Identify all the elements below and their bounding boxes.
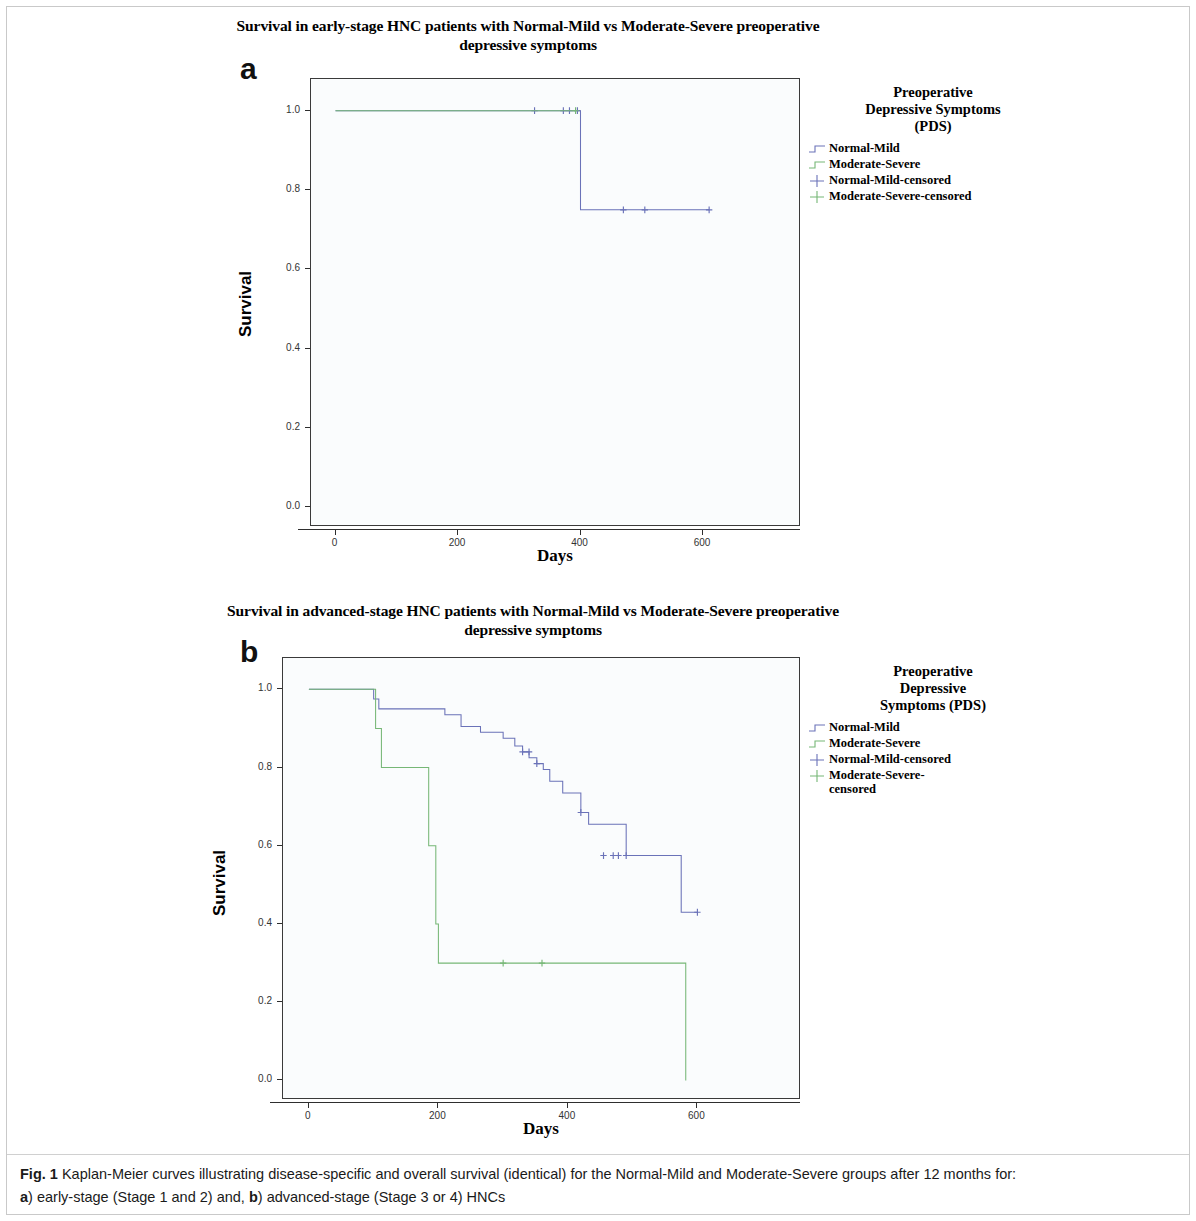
step-line-icon [808, 737, 826, 751]
panel-a: Survival in early-stage HNC patients wit… [0, 0, 1196, 585]
y-tick [305, 110, 310, 111]
x-tick [696, 1102, 697, 1108]
x-tick [567, 1102, 568, 1108]
y-tick [277, 845, 282, 846]
panel-b-legend-items: Normal-MildModerate-SevereNormal-Mild-ce… [808, 720, 1058, 796]
legend-title-line3: (PDS) [808, 118, 1058, 135]
legend-item-label: Moderate-Severe [829, 157, 920, 171]
censor-mark [500, 960, 506, 967]
y-tick [277, 688, 282, 689]
panel-a-legend: Preoperative Depressive Symptoms (PDS) N… [808, 84, 1058, 205]
censor-marker-icon [808, 753, 826, 767]
panel-a-title: Survival in early-stage HNC patients wit… [178, 16, 878, 54]
y-tick-label: 0.0 [238, 1073, 272, 1084]
y-tick [277, 767, 282, 768]
caption-body: Kaplan-Meier curves illustrating disease… [58, 1166, 1016, 1182]
caption-line-2: a) early-stage (Stage 1 and 2) and, b) a… [20, 1186, 1176, 1209]
legend-item[interactable]: Normal-Mild-censored [808, 752, 1058, 767]
panel-b-legend-title: Preoperative Depressive Symptoms (PDS) [808, 663, 1058, 714]
step-line-icon [808, 142, 826, 156]
x-tick [580, 529, 581, 535]
caption-label: Fig. 1 [20, 1166, 58, 1182]
panel-b-plot-area [282, 657, 800, 1099]
censor-mark [539, 960, 545, 967]
y-tick [277, 1001, 282, 1002]
y-tick-label: 0.2 [266, 421, 300, 432]
censor-mark [706, 206, 712, 213]
panel-b-x-axis-line [270, 1102, 800, 1103]
censor-mark [694, 909, 700, 916]
legend-item[interactable]: Moderate-Severe-censored [808, 189, 1058, 204]
y-tick-label: 0.4 [238, 917, 272, 928]
legend-item-label: Moderate-Severe-censored [829, 189, 972, 203]
legend-item[interactable]: Normal-Mild-censored [808, 173, 1058, 188]
censor-mark [534, 760, 540, 767]
y-tick [277, 923, 282, 924]
panel-b-curves [283, 658, 799, 1098]
censor-marker-icon [808, 174, 826, 188]
y-tick [305, 189, 310, 190]
panel-b-y-axis-title: Survival [210, 823, 230, 943]
step-line-icon [808, 158, 826, 172]
panel-a-title-line2: depressive symptoms [178, 35, 878, 54]
censor-mark [578, 809, 584, 816]
y-tick [305, 506, 310, 507]
panel-b-legend: Preoperative Depressive Symptoms (PDS) N… [808, 663, 1058, 797]
panel-b-title: Survival in advanced-stage HNC patients … [178, 601, 888, 639]
panel-a-y-axis-title: Survival [236, 244, 256, 364]
caption-divider [7, 1154, 1189, 1155]
panel-a-legend-items: Normal-MildModerate-SevereNormal-Mild-ce… [808, 141, 1058, 204]
censor-mark [615, 852, 621, 859]
y-tick-label: 0.8 [266, 183, 300, 194]
censor-mark [642, 206, 648, 213]
y-tick [277, 1079, 282, 1080]
survival-curve [336, 111, 710, 210]
caption-line-1: Fig. 1 Kaplan-Meier curves illustrating … [20, 1163, 1176, 1186]
x-tick [457, 529, 458, 535]
y-tick-label: 0.6 [238, 839, 272, 850]
figure-caption: Fig. 1 Kaplan-Meier curves illustrating … [20, 1163, 1176, 1209]
panel-a-legend-title: Preoperative Depressive Symptoms (PDS) [808, 84, 1058, 135]
panel-b-title-line2: depressive symptoms [178, 620, 888, 639]
censor-mark [600, 852, 606, 859]
legend-item[interactable]: Moderate-Severe- censored [808, 768, 1058, 796]
legend-title-line2: Depressive [808, 680, 1058, 697]
panel-a-x-axis-line [298, 529, 800, 530]
survival-curve [309, 689, 698, 912]
panel-a-letter: a [240, 54, 257, 84]
caption-ref-a: a [20, 1189, 28, 1205]
panel-b-title-line1: Survival in advanced-stage HNC patients … [178, 601, 888, 620]
y-tick-label: 0.0 [266, 500, 300, 511]
panel-b: Survival in advanced-stage HNC patients … [0, 585, 1196, 1155]
legend-item[interactable]: Normal-Mild [808, 720, 1058, 735]
legend-item[interactable]: Moderate-Severe [808, 736, 1058, 751]
caption-ref-b: b [249, 1189, 258, 1205]
censor-mark [519, 748, 525, 755]
censor-marker-icon [808, 769, 826, 783]
legend-title-line3: Symptoms (PDS) [808, 697, 1058, 714]
legend-item[interactable]: Normal-Mild [808, 141, 1058, 156]
x-tick [702, 529, 703, 535]
panel-b-x-axis-title: Days [282, 1119, 800, 1139]
y-tick-label: 1.0 [238, 682, 272, 693]
panel-a-plot-area [310, 78, 800, 526]
legend-title-line1: Preoperative [808, 663, 1058, 680]
x-tick [308, 1102, 309, 1108]
legend-item-label: Normal-Mild [829, 720, 900, 734]
y-tick-label: 0.4 [266, 342, 300, 353]
legend-item[interactable]: Moderate-Severe [808, 157, 1058, 172]
legend-title-line2: Depressive Symptoms [808, 101, 1058, 118]
legend-item-label: Normal-Mild-censored [829, 173, 951, 187]
panel-a-curves [311, 79, 799, 525]
legend-item-label: Normal-Mild [829, 141, 900, 155]
x-tick [335, 529, 336, 535]
legend-title-line1: Preoperative [808, 84, 1058, 101]
caption-mid: ) early-stage (Stage 1 and 2) and, [28, 1189, 249, 1205]
y-tick [305, 427, 310, 428]
y-tick-label: 0.2 [238, 995, 272, 1006]
y-tick-label: 1.0 [266, 104, 300, 115]
censor-mark [620, 206, 626, 213]
x-tick [437, 1102, 438, 1108]
censor-mark [526, 748, 532, 755]
censor-mark [623, 852, 629, 859]
